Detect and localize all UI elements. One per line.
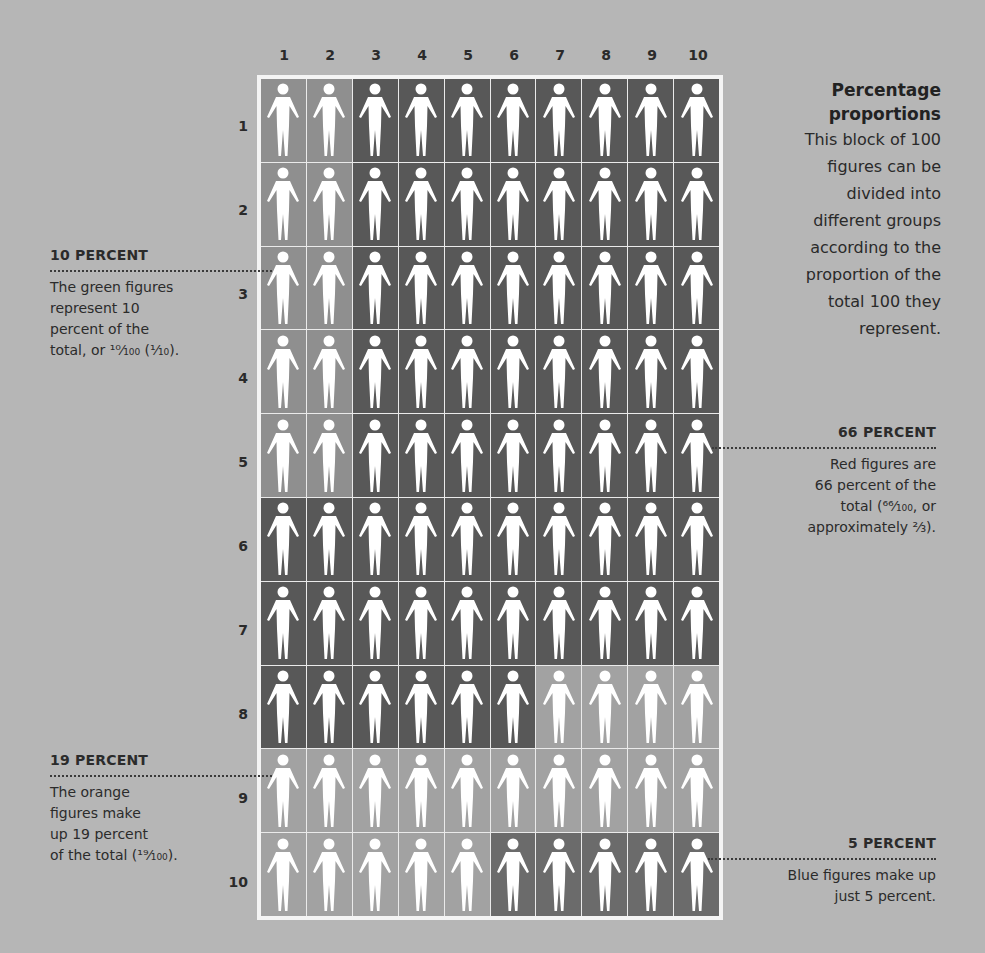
person-figure-icon: [678, 334, 716, 410]
figure-cell-blue: [582, 833, 627, 916]
figure-cell-red: [674, 79, 719, 162]
person-figure-icon: [586, 753, 624, 829]
column-label: 7: [537, 47, 583, 67]
figure-cell-red: [445, 582, 490, 665]
person-figure-icon: [540, 669, 578, 745]
annotation-text: represent 10: [50, 298, 272, 319]
person-figure-icon: [632, 334, 670, 410]
annotation-text: Blue figures make up: [708, 865, 936, 886]
figure-grid: [257, 75, 723, 920]
person-figure-icon: [448, 418, 486, 494]
person-figure-icon: [586, 585, 624, 661]
column-label: 5: [445, 47, 491, 67]
person-figure-icon: [494, 837, 532, 913]
annotation-text: total (⁶⁶⁄₁₀₀, or: [712, 496, 936, 517]
person-figure-icon: [678, 585, 716, 661]
person-figure-icon: [402, 166, 440, 242]
figure-cell-orange: [674, 666, 719, 749]
figure-cell-red: [445, 414, 490, 497]
person-figure-icon: [586, 669, 624, 745]
figure-cell-red: [491, 79, 536, 162]
person-figure-icon: [402, 837, 440, 913]
annotation-text: up 19 percent: [50, 824, 272, 845]
title-line-1: Percentage: [745, 78, 941, 102]
person-figure-icon: [448, 837, 486, 913]
person-figure-icon: [494, 501, 532, 577]
figure-cell-orange: [399, 749, 444, 832]
person-figure-icon: [356, 753, 394, 829]
figure-cell-green: [307, 414, 352, 497]
person-figure-icon: [356, 250, 394, 326]
figure-cell-orange: [491, 749, 536, 832]
figure-cell-blue: [491, 833, 536, 916]
person-figure-icon: [310, 753, 348, 829]
person-figure-icon: [494, 334, 532, 410]
figure-cell-green: [307, 247, 352, 330]
figure-cell-red: [674, 330, 719, 413]
annotation-text: The green figures: [50, 277, 272, 298]
figure-cell-red: [491, 498, 536, 581]
figure-cell-red: [536, 79, 581, 162]
leader-line: [50, 775, 272, 777]
figure-cell-green: [261, 163, 306, 246]
row-label: 1: [200, 79, 248, 163]
person-figure-icon: [356, 837, 394, 913]
figure-cell-red: [674, 163, 719, 246]
figure-cell-red: [582, 582, 627, 665]
annotation-text: total, or ¹⁰⁄₁₀₀ (¹⁄₁₀).: [50, 340, 272, 361]
person-figure-icon: [632, 753, 670, 829]
figure-cell-red: [582, 163, 627, 246]
figure-cell-red: [399, 330, 444, 413]
annotation-heading: 5 PERCENT: [708, 833, 936, 854]
figure-cell-orange: [445, 833, 490, 916]
person-figure-icon: [540, 250, 578, 326]
person-figure-icon: [448, 334, 486, 410]
figure-cell-red: [536, 247, 581, 330]
figure-cell-red: [674, 247, 719, 330]
figure-cell-orange: [536, 749, 581, 832]
person-figure-icon: [264, 166, 302, 242]
figure-cell-red: [491, 414, 536, 497]
person-figure-icon: [264, 418, 302, 494]
figure-cell-red: [261, 498, 306, 581]
person-figure-icon: [632, 82, 670, 158]
person-figure-icon: [540, 418, 578, 494]
person-figure-icon: [586, 166, 624, 242]
description-line: divided into: [745, 180, 941, 207]
annotation-heading: 10 PERCENT: [50, 245, 272, 266]
person-figure-icon: [494, 585, 532, 661]
figure-cell-red: [491, 666, 536, 749]
person-figure-icon: [494, 418, 532, 494]
annotation-orange: 19 PERCENT The orange figures make up 19…: [50, 750, 272, 866]
figure-cell-red: [582, 330, 627, 413]
person-figure-icon: [586, 250, 624, 326]
figure-cell-orange: [307, 833, 352, 916]
row-label: 6: [200, 499, 248, 583]
figure-cell-orange: [307, 749, 352, 832]
figure-cell-red: [536, 414, 581, 497]
person-figure-icon: [356, 501, 394, 577]
person-figure-icon: [540, 334, 578, 410]
column-labels: 12345678910: [261, 47, 721, 67]
person-figure-icon: [586, 418, 624, 494]
leader-line: [712, 447, 936, 449]
column-label: 3: [353, 47, 399, 67]
figure-cell-orange: [536, 666, 581, 749]
annotation-heading: 19 PERCENT: [50, 750, 272, 771]
person-figure-icon: [678, 669, 716, 745]
figure-cell-red: [445, 247, 490, 330]
figure-cell-red: [353, 666, 398, 749]
figure-cell-red: [628, 582, 673, 665]
figure-cell-red: [261, 666, 306, 749]
person-figure-icon: [310, 82, 348, 158]
figure-cell-red: [491, 582, 536, 665]
annotation-text: percent of the: [50, 319, 272, 340]
figure-cell-red: [445, 163, 490, 246]
figure-cell-red: [536, 163, 581, 246]
person-figure-icon: [632, 250, 670, 326]
person-figure-icon: [632, 418, 670, 494]
person-figure-icon: [678, 501, 716, 577]
person-figure-icon: [310, 418, 348, 494]
figure-cell-orange: [582, 666, 627, 749]
annotation-text: The orange: [50, 782, 272, 803]
